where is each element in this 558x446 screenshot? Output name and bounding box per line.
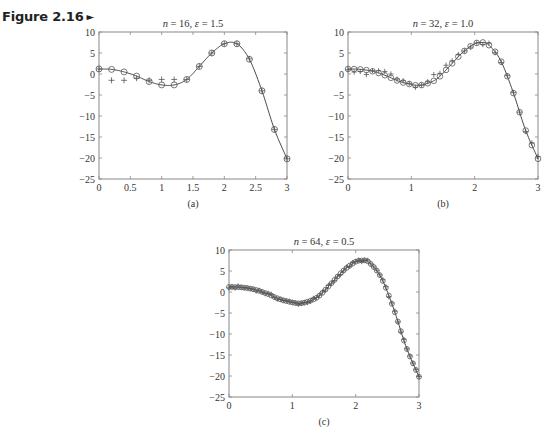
x-tick-label: 1 [409,182,414,193]
plus-marker [450,58,455,63]
fit-curve [348,42,538,158]
x-tick-label: 2.5 [249,182,262,193]
chart-panel-c: n = 64, ε = 0.51050−5−10−15−20−250123 [229,250,419,397]
plus-marker [443,63,448,68]
plus-marker [352,69,357,74]
y-tick-label: 5 [339,48,344,59]
x-tick-label: 2 [353,400,358,411]
plus-marker [134,75,140,81]
chart-panel-b: n = 32, ε = 1.01050−5−10−15−20−250123 [348,32,538,179]
y-tick-label: −25 [209,392,225,403]
triangle-right-icon: ► [87,11,95,22]
plus-marker [456,52,461,57]
fit-curve [99,42,287,159]
plus-marker [171,76,177,82]
chart-title: n = 32, ε = 1.0 [413,18,474,29]
plot-frame [99,32,287,179]
y-tick-label: −20 [79,153,95,164]
chart-a: n = 16, ε = 1.51050−5−10−15−20−2500.511.… [99,32,287,179]
plus-marker [392,309,397,314]
chart-panel-a: n = 16, ε = 1.51050−5−10−15−20−2500.511.… [99,32,287,179]
y-tick-label: −25 [328,174,344,185]
plus-marker [364,72,369,77]
chart-title: n = 64, ε = 0.5 [294,236,355,247]
y-tick-label: −15 [79,132,95,143]
plus-marker [523,129,528,134]
chart-title: n = 16, ε = 1.5 [163,18,224,29]
y-tick-label: 5 [220,266,225,277]
y-tick-label: −10 [209,329,225,340]
plus-marker [383,284,388,289]
y-tick-label: 0 [90,69,95,80]
y-tick-label: −15 [209,350,225,361]
x-tick-label: 1 [159,182,164,193]
y-tick-label: 0 [339,69,344,80]
figure-number: Figure 2.16 [2,9,84,24]
x-tick-label: 3 [285,182,290,193]
y-tick-label: 0 [220,287,225,298]
y-tick-label: −20 [328,153,344,164]
y-tick-label: −10 [328,111,344,122]
y-tick-label: 10 [334,27,344,38]
x-tick-label: 2 [472,182,477,193]
y-tick-label: −5 [333,90,344,101]
plus-marker [401,337,406,342]
y-tick-label: −15 [328,132,344,143]
y-tick-label: −5 [84,90,95,101]
caption-a: (a) [173,198,213,209]
y-tick-label: 10 [215,245,225,256]
plus-marker [386,294,391,299]
plus-marker [109,77,115,83]
plus-marker [437,71,442,76]
x-tick-label: 3 [417,400,422,411]
x-tick-label: 1 [290,400,295,411]
figure-label: Figure 2.16► [2,9,94,24]
plus-marker [159,76,165,82]
x-tick-label: 0 [346,182,351,193]
y-tick-label: 10 [85,27,95,38]
x-tick-label: 0 [97,182,102,193]
plus-marker [486,41,491,46]
x-tick-label: 1.5 [187,182,200,193]
caption-b: (b) [423,198,463,209]
chart-b: n = 32, ε = 1.01050−5−10−15−20−250123 [348,32,538,179]
x-tick-label: 2 [222,182,227,193]
plus-marker [431,72,436,77]
fit-curve [229,260,419,376]
x-tick-label: 3 [536,182,541,193]
y-tick-label: 5 [90,48,95,59]
plot-frame [229,250,419,397]
x-tick-label: 0.5 [124,182,137,193]
y-tick-label: −5 [214,308,225,319]
x-tick-label: 0 [227,400,232,411]
plus-marker [121,77,127,83]
caption-c: (c) [304,416,344,427]
y-tick-label: −25 [79,174,95,185]
y-tick-label: −10 [79,111,95,122]
chart-c: n = 64, ε = 0.51050−5−10−15−20−250123 [229,250,419,397]
y-tick-label: −20 [209,371,225,382]
plot-frame [348,32,538,179]
